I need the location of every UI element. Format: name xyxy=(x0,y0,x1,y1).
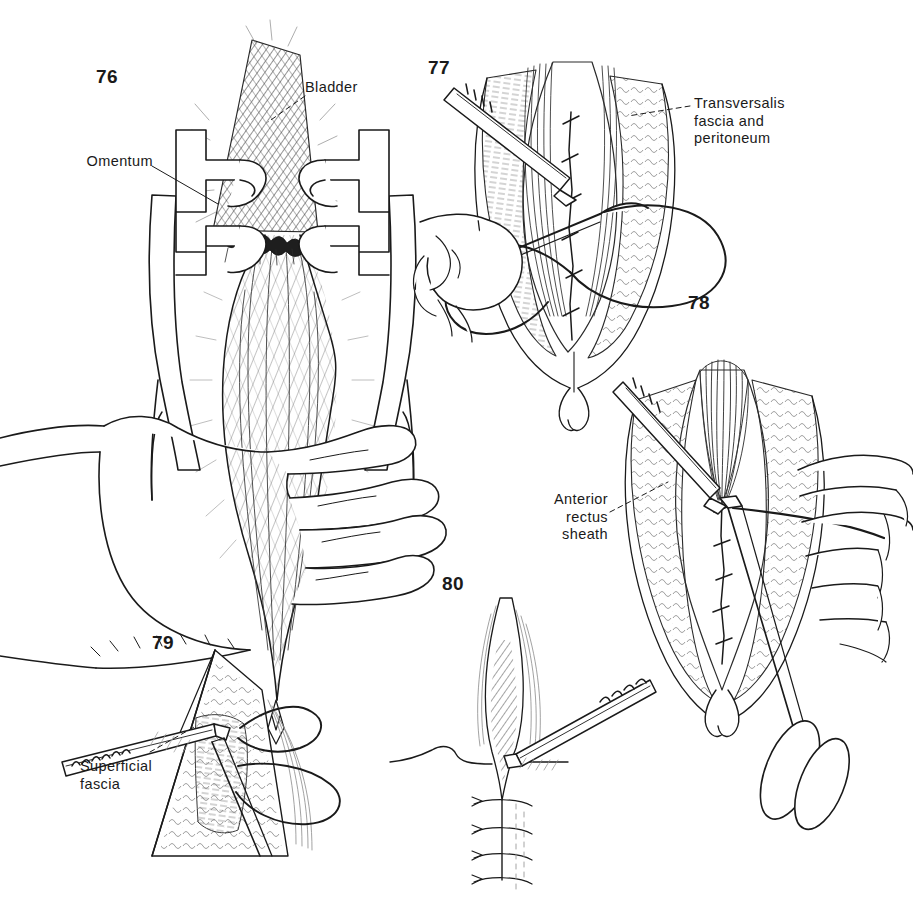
figure-79-artwork xyxy=(62,650,340,856)
illustration-plate: 76 77 78 79 80 Bladder Omentum Transvers… xyxy=(0,0,913,902)
label-omentum: Omentum xyxy=(58,153,153,171)
figure-number-78: 78 xyxy=(688,292,710,314)
label-superficial-fascia: Superficial fascia xyxy=(80,758,200,793)
figure-78-artwork xyxy=(610,360,913,837)
figure-number-76: 76 xyxy=(96,66,118,88)
label-anterior-rectus-sheath: Anterior rectus sheath xyxy=(500,491,608,544)
figure-number-77: 77 xyxy=(428,57,450,79)
label-transversalis-fascia-and-peritoneum: Transversalis fascia and peritoneum xyxy=(694,95,864,148)
figure-80-artwork xyxy=(390,598,656,890)
figure-number-79: 79 xyxy=(152,632,174,654)
figure-77-artwork xyxy=(413,62,725,430)
label-bladder: Bladder xyxy=(305,79,395,97)
figure-number-80: 80 xyxy=(442,573,464,595)
figure-76-artwork xyxy=(0,20,446,744)
